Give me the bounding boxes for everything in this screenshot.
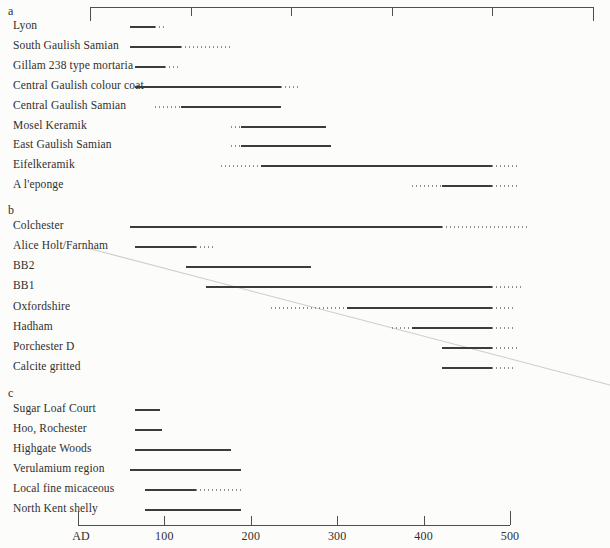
date-range-dotted-lead xyxy=(271,307,346,309)
date-range-dotted-tail xyxy=(181,46,231,48)
date-range-dotted-tail xyxy=(442,226,528,228)
bottom-axis-tick xyxy=(251,516,252,525)
date-range-solid xyxy=(145,489,195,491)
date-range-solid xyxy=(130,26,155,28)
date-range-solid xyxy=(130,226,442,228)
top-axis-tick xyxy=(593,7,594,21)
date-range-dotted-tail xyxy=(165,66,180,68)
date-range-dotted-lead xyxy=(231,126,241,128)
section-label-a: a xyxy=(8,4,14,19)
bottom-axis-tick-label: AD xyxy=(72,529,90,544)
date-range-solid xyxy=(241,126,327,128)
date-range-solid xyxy=(241,145,332,147)
top-axis-tick xyxy=(90,7,91,21)
date-range-dotted-tail xyxy=(492,286,522,288)
bottom-axis-tick xyxy=(510,511,511,525)
top-axis-tick xyxy=(291,7,292,16)
date-range-solid xyxy=(130,46,180,48)
row-label: BB1 xyxy=(13,279,35,291)
row-label: East Gaulish Samian xyxy=(13,138,112,150)
top-axis-tick xyxy=(191,7,192,16)
row-label: Alice Holt/Farnham xyxy=(13,239,108,251)
date-range-solid xyxy=(135,449,231,451)
row-label: Sugar Loaf Court xyxy=(13,402,96,414)
row-label: A l'eponge xyxy=(13,178,64,190)
date-range-solid xyxy=(145,509,241,511)
section-label-c: c xyxy=(8,386,14,401)
bottom-axis-tick-label: 400 xyxy=(414,529,433,544)
date-range-dotted-tail xyxy=(196,246,216,248)
bottom-axis-tick-label: 200 xyxy=(241,529,260,544)
date-range-dotted-lead xyxy=(231,145,241,147)
date-range-solid xyxy=(135,246,195,248)
date-range-solid xyxy=(442,347,492,349)
date-range-dotted-lead xyxy=(412,185,442,187)
section-label-b: b xyxy=(8,203,14,218)
scanned-chart-page: aLyonSouth Gaulish SamianGillam 238 type… xyxy=(0,0,610,548)
date-range-solid xyxy=(186,266,312,268)
date-range-solid xyxy=(130,469,241,471)
date-range-dotted-tail xyxy=(492,185,517,187)
row-label: Highgate Woods xyxy=(13,442,92,454)
date-range-dotted-tail xyxy=(155,26,165,28)
bottom-axis-tick xyxy=(337,516,338,525)
date-range-dotted-tail xyxy=(492,347,517,349)
date-range-dotted-tail xyxy=(196,489,241,491)
date-range-solid xyxy=(181,106,282,108)
bottom-axis-tick xyxy=(78,511,79,525)
date-range-dotted-lead xyxy=(155,106,180,108)
date-range-solid xyxy=(135,66,165,68)
row-label: Colchester xyxy=(13,219,64,231)
bottom-axis-tick-label: 500 xyxy=(501,529,520,544)
row-label: Verulamium region xyxy=(13,462,105,474)
date-range-solid xyxy=(347,307,493,309)
row-label: Lyon xyxy=(13,19,37,31)
row-label: Porchester D xyxy=(13,340,75,352)
bottom-axis-line xyxy=(78,525,510,526)
row-label: North Kent shelly xyxy=(13,502,98,514)
top-axis-line xyxy=(90,7,593,8)
row-label: Local fine micaceous xyxy=(13,482,114,494)
row-label: BB2 xyxy=(13,259,35,271)
date-range-solid xyxy=(206,286,493,288)
top-axis-tick xyxy=(492,7,493,16)
row-label: Oxfordshire xyxy=(13,300,70,312)
row-label: Hadham xyxy=(13,320,53,332)
date-range-dotted-tail xyxy=(492,307,512,309)
row-label: Mosel Keramik xyxy=(13,119,87,131)
bottom-axis-tick-label: 300 xyxy=(328,529,347,544)
date-range-solid xyxy=(135,409,160,411)
date-range-dotted-tail xyxy=(492,367,512,369)
row-label: Calcite gritted xyxy=(13,360,81,372)
bottom-axis-tick xyxy=(424,516,425,525)
bottom-axis-tick xyxy=(164,516,165,525)
date-range-dotted-tail xyxy=(492,327,512,329)
date-range-solid xyxy=(261,165,492,167)
top-axis-tick xyxy=(392,7,393,16)
row-label: Gillam 238 type mortaria xyxy=(13,59,133,71)
date-range-solid xyxy=(442,185,492,187)
row-label: South Gaulish Samian xyxy=(13,39,119,51)
row-label: Central Gaulish Samian xyxy=(13,99,126,111)
date-range-solid xyxy=(412,327,492,329)
date-range-solid xyxy=(135,86,281,88)
date-range-dotted-lead xyxy=(392,327,412,329)
row-label: Hoo, Rochester xyxy=(13,422,87,434)
date-range-solid xyxy=(442,367,492,369)
bottom-axis-tick-label: 100 xyxy=(155,529,174,544)
row-label: Eifelkeramik xyxy=(13,158,75,170)
date-range-dotted-lead xyxy=(221,165,261,167)
row-label: Central Gaulish colour coat xyxy=(13,79,144,91)
date-range-dotted-tail xyxy=(492,165,517,167)
date-range-solid xyxy=(135,429,162,431)
date-range-dotted-tail xyxy=(281,86,301,88)
